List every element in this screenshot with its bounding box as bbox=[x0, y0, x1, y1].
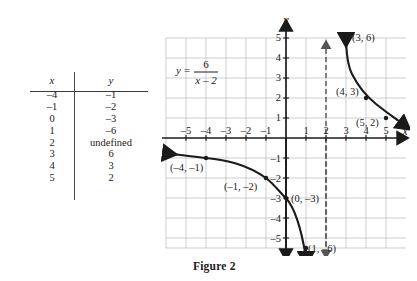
y-tick-label: 4 bbox=[276, 52, 282, 63]
table-row: 5 2 bbox=[30, 171, 148, 183]
x-tick-label: –2 bbox=[240, 125, 252, 136]
equation-numerator: 6 bbox=[203, 58, 209, 70]
y-tick-label: 5 bbox=[276, 32, 281, 43]
value-table: x y –4 –1 –1 –2 0 –3 1 – bbox=[30, 74, 148, 183]
point-dot bbox=[204, 156, 208, 160]
y-axis-label: y bbox=[282, 14, 289, 27]
x-tick-label: 5 bbox=[383, 125, 388, 136]
point-label-m4-m1: (–4, –1) bbox=[170, 162, 204, 174]
table-row: 4 3 bbox=[30, 160, 148, 172]
table-header-row: x y bbox=[30, 74, 148, 89]
y-tick-label: 1 bbox=[276, 112, 281, 123]
x-tick-label: 1 bbox=[303, 125, 308, 136]
cell-x: 5 bbox=[30, 171, 74, 183]
point-dot bbox=[264, 176, 268, 180]
point-dot bbox=[384, 116, 388, 120]
x-axis-label: x bbox=[401, 125, 408, 137]
cell-x: 0 bbox=[30, 113, 74, 125]
x-tick-label: –3 bbox=[220, 125, 232, 136]
y-tick-label: –1 bbox=[270, 153, 282, 164]
y-tick-label: –4 bbox=[270, 213, 282, 224]
point-dot bbox=[344, 36, 348, 40]
figure-caption: Figure 2 bbox=[193, 260, 236, 272]
point-label-5-2: (5, 2) bbox=[356, 117, 379, 129]
table-row: 2 undefined bbox=[30, 136, 148, 148]
cell-y: –1 bbox=[74, 89, 148, 101]
point-label-3-6: (3, 6) bbox=[352, 32, 375, 44]
x-tick-label: –1 bbox=[260, 125, 272, 136]
point-dot bbox=[364, 96, 368, 100]
table-row: 1 –6 bbox=[30, 124, 148, 136]
cell-y: 6 bbox=[74, 148, 148, 160]
equation-lhs: y bbox=[175, 64, 181, 76]
table-row: 0 –3 bbox=[30, 113, 148, 125]
cell-x: 4 bbox=[30, 160, 74, 172]
table-body: –4 –1 –1 –2 0 –3 1 –6 2 undefined bbox=[30, 89, 148, 183]
table-row: –4 –1 bbox=[30, 89, 148, 101]
cell-y: –3 bbox=[74, 113, 148, 125]
y-tick-label: –3 bbox=[270, 193, 282, 204]
table-header-x: x bbox=[30, 74, 74, 89]
cell-y: 3 bbox=[74, 160, 148, 172]
y-tick-label: –5 bbox=[270, 233, 282, 244]
point-label-0-m3: (0, –3) bbox=[291, 193, 319, 205]
cell-x: –1 bbox=[30, 101, 74, 113]
x-tick-label: 3 bbox=[343, 125, 348, 136]
equation-denominator: x – 2 bbox=[194, 74, 217, 86]
figure-page: x y –4 –1 –1 –2 0 –3 1 – bbox=[0, 0, 417, 281]
equation-label: y = 6 x – 2 bbox=[175, 58, 218, 86]
cell-y: –6 bbox=[74, 124, 148, 136]
cell-y: 2 bbox=[74, 171, 148, 183]
x-tick-label: –4 bbox=[200, 125, 212, 136]
cell-x: 3 bbox=[30, 148, 74, 160]
cell-x: 2 bbox=[30, 136, 74, 148]
cell-x: –4 bbox=[30, 89, 74, 101]
graph-svg: –5 –4 –3 –2 –1 1 2 3 4 5 5 4 3 2 1 –1 –2… bbox=[160, 8, 410, 256]
point-label-4-3: (4, 3) bbox=[336, 86, 359, 98]
x-tick-label: 2 bbox=[323, 125, 328, 136]
point-label-m1-m2: (–1, –2) bbox=[224, 181, 258, 193]
y-tick-label: 3 bbox=[276, 72, 281, 83]
table-header: x y bbox=[30, 74, 148, 89]
table-row: –1 –2 bbox=[30, 101, 148, 113]
table-header-y: y bbox=[74, 74, 148, 89]
coordinate-graph: –5 –4 –3 –2 –1 1 2 3 4 5 5 4 3 2 1 –1 –2… bbox=[160, 8, 410, 256]
point-dot bbox=[284, 196, 288, 200]
cell-y: undefined bbox=[74, 136, 148, 148]
cell-x: 1 bbox=[30, 124, 74, 136]
y-tick-label: –2 bbox=[270, 173, 282, 184]
x-tick-label: –5 bbox=[180, 125, 192, 136]
cell-y: –2 bbox=[74, 101, 148, 113]
table-row: 3 6 bbox=[30, 148, 148, 160]
point-label-1-m6: (1, –6) bbox=[308, 243, 336, 255]
xy-table: x y –4 –1 –1 –2 0 –3 1 – bbox=[30, 74, 148, 183]
equation-equals: = bbox=[184, 64, 190, 76]
y-tick-label: 2 bbox=[276, 92, 281, 103]
